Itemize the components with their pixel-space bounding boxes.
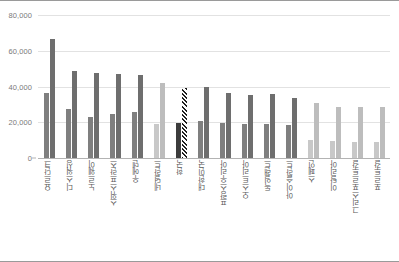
x-axis-label: 노르웨이	[86, 160, 100, 256]
bar	[374, 142, 379, 158]
x-axis-label-text: 한국	[177, 160, 185, 175]
x-axis-label-text: 스페인	[309, 160, 317, 183]
bar	[50, 39, 55, 158]
y-axis-tick-label: 80,000	[8, 11, 32, 20]
bar-group	[38, 15, 60, 158]
x-axis-label: 그리스포르투갈	[350, 160, 364, 256]
bar-group	[126, 15, 148, 158]
bar-group	[60, 15, 82, 158]
bar	[94, 73, 99, 158]
y-axis-tick-mark	[32, 158, 36, 159]
x-axis-label: 아이슬란드	[284, 160, 298, 256]
x-axis-label: 네덜란드	[152, 160, 166, 256]
x-axis-label-text: 독일랜드	[265, 160, 273, 191]
bar	[176, 123, 181, 158]
bar-group	[214, 15, 236, 158]
x-axis-label: 독일랜드	[262, 160, 276, 256]
bar-group	[324, 15, 346, 158]
bar	[66, 109, 71, 158]
x-axis-label: 프랑스우리아	[218, 160, 232, 256]
bar	[314, 103, 319, 158]
bar	[270, 94, 275, 158]
y-axis-tick-label: 60,000	[8, 46, 32, 55]
bar	[292, 98, 297, 158]
bar	[248, 95, 253, 158]
x-axis-label: 한국	[174, 160, 188, 256]
x-axis-label: 스페인	[306, 160, 320, 256]
bar-group	[280, 15, 302, 158]
bar	[286, 125, 291, 158]
x-axis-label-text: 네덜란드	[155, 160, 163, 191]
bar-group	[236, 15, 258, 158]
x-axis-label: 포르투갈	[372, 160, 386, 256]
x-axis-label-text: 우에덴	[133, 160, 141, 183]
x-axis-label: 스위스프란스	[108, 160, 122, 256]
x-axis-label-text: 이탈리아	[331, 160, 339, 191]
bar	[154, 124, 159, 158]
y-axis-tick-label: 40,000	[8, 82, 32, 91]
bar-group	[368, 15, 390, 158]
bar	[116, 74, 121, 158]
bar	[182, 88, 187, 158]
bar	[110, 114, 115, 158]
bar	[132, 112, 137, 158]
bar	[204, 87, 209, 158]
bar-group	[170, 15, 192, 158]
x-axis-label: 우에덴	[130, 160, 144, 256]
x-axis-label-text: 노르웨이	[89, 160, 97, 191]
x-axis-label-text: 대한민국	[199, 160, 207, 191]
x-axis-label-text: 요르단크	[45, 160, 53, 191]
x-axis-label: 요르단크	[42, 160, 56, 256]
x-axis-label-text: 스위스프란스	[111, 160, 119, 206]
y-axis-tick-label: 20,000	[8, 118, 32, 127]
bar	[160, 83, 165, 158]
x-axis-label: 오스트리아	[240, 160, 254, 256]
bar	[220, 123, 225, 158]
bar	[198, 121, 203, 158]
bar	[352, 142, 357, 158]
bar-group	[258, 15, 280, 158]
bar	[72, 71, 77, 158]
x-axis-label-text: 프랑스우리아	[221, 160, 229, 206]
bar	[330, 141, 335, 158]
bar-group	[302, 15, 324, 158]
x-axis-label-text: 포르투갈	[375, 160, 383, 191]
bar	[242, 124, 247, 158]
bar-group	[192, 15, 214, 158]
bar	[226, 93, 231, 158]
x-axis-label-text: 아이슬란드	[287, 160, 295, 199]
bars-layer	[38, 15, 390, 158]
x-axis-labels: 요르단크디스워싱노르웨이스위스프란스우에덴네덜란드한국대한민국프랑스우리아오스트…	[38, 160, 390, 258]
plot-area	[38, 15, 390, 158]
bar	[138, 75, 143, 158]
x-axis-label: 디스워싱	[64, 160, 78, 256]
bar-group	[104, 15, 126, 158]
y-axis: 020,00040,00060,00080,000	[0, 15, 36, 158]
x-axis-label-text: 그리스포르투갈	[353, 160, 361, 214]
x-axis-label-text: 디스워싱	[67, 160, 75, 191]
chart-frame: 020,00040,00060,00080,000 요르단크디스워싱노르웨이스위…	[0, 0, 399, 262]
bar-group	[148, 15, 170, 158]
bar	[380, 107, 385, 158]
bar	[44, 93, 49, 158]
x-axis-label-text: 오스트리아	[243, 160, 251, 199]
bar-group	[82, 15, 104, 158]
bar	[358, 107, 363, 158]
x-axis-label: 이탈리아	[328, 160, 342, 256]
x-axis-label: 대한민국	[196, 160, 210, 256]
bar	[264, 124, 269, 158]
bar-group	[346, 15, 368, 158]
bar	[336, 107, 341, 158]
bar	[308, 140, 313, 158]
bar	[88, 117, 93, 158]
